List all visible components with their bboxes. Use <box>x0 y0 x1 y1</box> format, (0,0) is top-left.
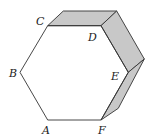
vertex-label-d: D <box>87 31 97 44</box>
vertex-label-c: C <box>36 15 45 28</box>
vertex-label-a: A <box>41 124 50 137</box>
vertex-label-e: E <box>110 70 119 83</box>
vertex-label-f: F <box>97 124 106 137</box>
hexagon-diagram: C D B E A F <box>0 0 149 140</box>
vertex-label-b: B <box>8 67 17 80</box>
lower-right-face <box>101 59 144 120</box>
